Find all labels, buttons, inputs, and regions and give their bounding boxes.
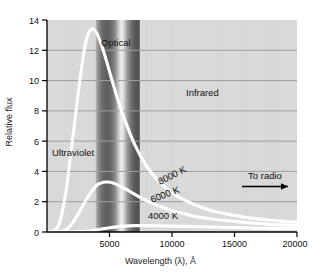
y-tick-label-6: 6	[34, 137, 39, 147]
x-tick-label-5000: 5000	[99, 239, 119, 249]
y-tick-label-0: 0	[34, 228, 39, 238]
infrared-label: Infrared	[186, 87, 219, 98]
blackbody-spectrum-figure: 14 12 10 8 6 4 2 0 5000 10000 15000 2000…	[0, 0, 321, 274]
y-tick-label-12: 12	[29, 46, 39, 56]
x-tick-label-15000: 15000	[222, 239, 247, 249]
optical-band-label: Optical	[101, 37, 131, 48]
y-axis-ticks	[42, 20, 47, 232]
y-axis-title: Relative flux	[4, 82, 14, 162]
x-axis-title: Wavelength (λ), Å	[0, 256, 321, 266]
x-axis-ticks	[110, 232, 298, 237]
x-tick-label-20000: 20000	[282, 239, 307, 249]
to-radio-label: To radio	[248, 170, 282, 181]
y-tick-label-2: 2	[34, 197, 39, 207]
x-tick-label-10000: 10000	[159, 239, 184, 249]
y-tick-label-10: 10	[29, 76, 39, 86]
curve-label-4000k: 4000 K	[148, 210, 179, 221]
chart-canvas: 14 12 10 8 6 4 2 0 5000 10000 15000 2000…	[0, 0, 321, 274]
ultraviolet-label: Ultraviolet	[52, 147, 95, 158]
y-tick-label-8: 8	[34, 106, 39, 116]
y-tick-label-4: 4	[34, 167, 39, 177]
y-tick-label-14: 14	[29, 16, 39, 26]
